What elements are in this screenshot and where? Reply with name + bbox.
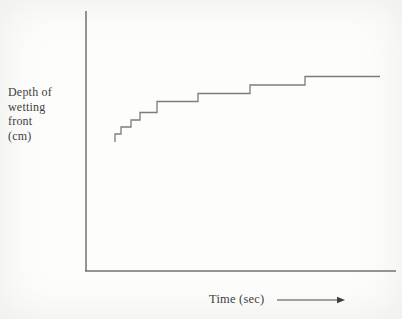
x-axis-label: Time (sec) (209, 292, 264, 307)
time-arrow-head (337, 297, 345, 303)
wetting-curve (115, 77, 380, 143)
y-axis-label: Depth of wetting front (cm) (8, 85, 52, 143)
chart-canvas (0, 0, 402, 319)
y-axis-label-line: Depth of (8, 85, 52, 100)
y-axis-label-line: front (8, 114, 52, 129)
wetting-front-figure: Depth of wetting front (cm) Time (sec) (0, 0, 402, 319)
y-axis-label-line: wetting (8, 100, 52, 115)
y-axis-label-line: (cm) (8, 129, 52, 144)
